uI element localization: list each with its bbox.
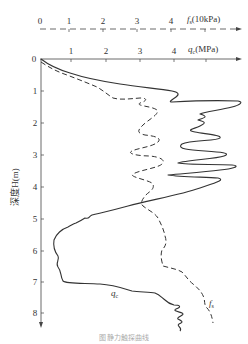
depth-axis-title: 深度H(m) xyxy=(9,168,20,206)
fs-axis: 0 1 2 3 4 fs(10kPa) xyxy=(38,14,242,32)
depth-tick-8: 8 xyxy=(33,308,38,318)
qc-tick-2: 2 xyxy=(104,46,109,56)
cpt-chart: 0 1 2 3 4 fs(10kPa) 0 1 2 3 4 qc(MPa) 1 … xyxy=(0,0,248,344)
qc-curve xyxy=(41,59,241,331)
fs-tick-3: 3 xyxy=(135,16,140,26)
depth-axis: 1 2 3 4 5 6 7 8 深度H(m) xyxy=(9,59,44,328)
fs-tick-2: 2 xyxy=(101,16,106,26)
depth-tick-4: 4 xyxy=(33,182,38,192)
fs-tick-0: 0 xyxy=(38,16,43,26)
origin-label: 0 xyxy=(32,54,37,64)
depth-tick-2: 2 xyxy=(33,118,38,128)
qc-curve-label: qc xyxy=(111,288,119,299)
depth-tick-6: 6 xyxy=(33,246,38,256)
qc-axis-title: qc(MPa) xyxy=(188,44,218,55)
qc-tick-4: 4 xyxy=(172,46,177,56)
depth-tick-3: 3 xyxy=(33,150,38,160)
depth-tick-5: 5 xyxy=(33,214,38,224)
fs-axis-title: fs(10kPa) xyxy=(187,14,220,25)
fs-tick-1: 1 xyxy=(67,16,72,26)
depth-tick-7: 7 xyxy=(33,277,38,287)
figure-caption: 图 静力触探曲线 xyxy=(99,333,150,342)
fs-tick-4: 4 xyxy=(169,16,174,26)
qc-tick-3: 3 xyxy=(138,46,143,56)
fs-curve-label: fs xyxy=(209,298,215,309)
depth-tick-1: 1 xyxy=(33,86,38,96)
qc-axis: 0 1 2 3 4 qc(MPa) xyxy=(32,44,242,64)
qc-tick-1: 1 xyxy=(69,46,74,56)
